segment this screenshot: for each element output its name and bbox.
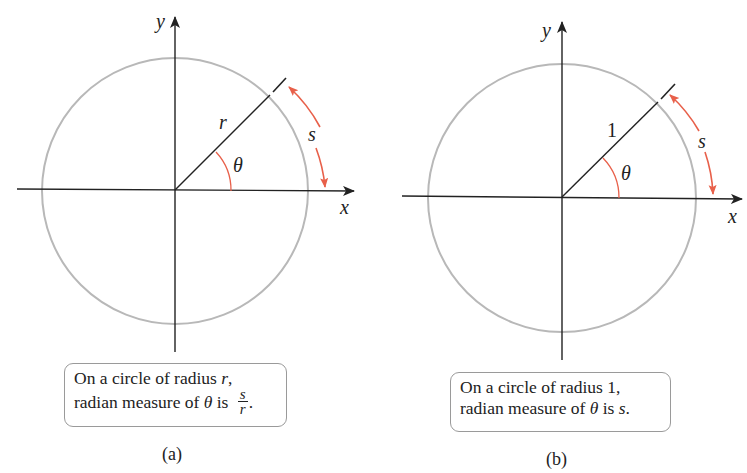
x-axis-a <box>17 189 354 191</box>
caption-a-period: . <box>249 392 253 412</box>
angle-arc-a <box>216 152 231 191</box>
fraction-denominator: r <box>238 402 248 416</box>
arc-label-a: s <box>308 123 316 145</box>
caption-a-line1-text: On a circle of radius <box>74 368 221 388</box>
arc-length-arrow-a <box>289 87 320 127</box>
caption-box-b: On a circle of radius 1, radian measure … <box>450 372 671 432</box>
caption-box-a: On a circle of radius r, radian measure … <box>64 363 287 427</box>
caption-a-comma: , <box>228 368 232 388</box>
caption-a-line2: radian measure of θ is sr. <box>74 389 278 418</box>
angle-arc-b <box>603 158 619 198</box>
panel-label-b: (b) <box>546 449 567 470</box>
x-axis-label-a: x <box>339 196 349 218</box>
radius-line-a <box>175 95 270 190</box>
x-axis-label-b: x <box>727 205 737 227</box>
x-axis-b <box>402 196 742 199</box>
arc-label-b: s <box>698 130 706 152</box>
y-axis-label-a: y <box>154 10 165 33</box>
radius-label-b: 1 <box>607 119 617 141</box>
caption-a-line1: On a circle of radius r, <box>74 368 278 389</box>
arc-length-arrow-b-lower <box>705 152 713 194</box>
caption-b-line2-text: radian measure of <box>460 398 590 418</box>
caption-b-is: is <box>598 398 618 418</box>
caption-a-is: is <box>212 392 232 412</box>
fraction-numerator: s <box>238 387 248 402</box>
radius-extension-tick-a <box>273 78 286 92</box>
caption-a-line2-text: radian measure of <box>74 392 204 412</box>
caption-b-line2: radian measure of θ is s. <box>460 398 662 419</box>
radius-line-b <box>562 102 658 197</box>
radius-label-a: r <box>219 111 227 133</box>
y-axis-label-b: y <box>540 19 551 42</box>
caption-b-var-s: s <box>619 398 626 418</box>
panel-label-a: (a) <box>162 444 182 465</box>
caption-b-period: . <box>626 398 630 418</box>
caption-b-line1: On a circle of radius 1, <box>460 377 662 398</box>
panel-a-diagram: y x r θ s <box>17 10 354 352</box>
angle-label-b: θ <box>621 162 631 184</box>
fraction-s-over-r: sr <box>238 387 248 416</box>
panel-b-diagram: y x 1 θ s <box>402 19 742 360</box>
angle-label-a: θ <box>233 154 243 176</box>
arc-length-arrow-a-lower <box>316 148 325 187</box>
